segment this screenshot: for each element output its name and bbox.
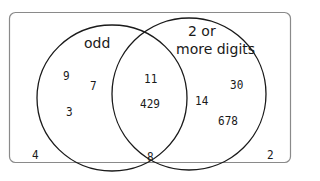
odd-element: 7 [90,79,97,92]
intersection-element: 429 [140,97,160,110]
digits-set-title-line1: 2 or [188,24,216,38]
intersection-element: 11 [144,72,157,85]
digits-element: 678 [218,114,238,127]
outside-element: 2 [267,148,274,161]
odd-set-title: odd [84,36,110,50]
outside-element: 8 [147,150,154,163]
odd-element: 9 [63,69,70,82]
outside-element: 4 [32,148,39,161]
digits-set-title-line2: more digits [176,42,255,56]
digits-element: 14 [195,94,208,107]
digits-element: 30 [230,78,243,91]
odd-element: 3 [66,105,73,118]
